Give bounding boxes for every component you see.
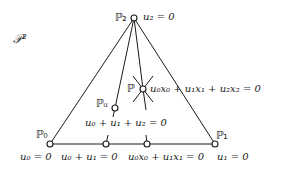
label-p2-equation: u₂ = 0 <box>143 11 175 22</box>
label-p: ℙ <box>127 83 134 94</box>
label-pu: ℙᵤ <box>96 98 107 109</box>
label-p-equation: u₀x₀ + u₁x₁ + u₂x₂ = 0 <box>150 83 261 94</box>
point-pu <box>112 105 118 111</box>
label-p2: ℙ₂ <box>115 12 126 23</box>
point-q2 <box>144 141 150 147</box>
label-q2-equation: u₀x₀ + u₁x₁ = 0 <box>128 151 204 162</box>
point-q1 <box>103 141 109 147</box>
label-q1-equation: u₀ + u₁ = 0 <box>61 151 118 162</box>
label-p1-equation: u₁ = 0 <box>217 151 249 162</box>
projective-plane-diagram: 𝒫² ℙ₂ u₂ = 0 ℙ u₀x₀ + u₁x₁ + u₂x₂ = 0 ℙᵤ… <box>0 0 282 171</box>
label-p0: ℙ₀ <box>36 129 47 140</box>
label-p0-equation: u₀ = 0 <box>20 151 52 162</box>
point-p <box>140 86 146 92</box>
space-label: 𝒫² <box>13 34 27 45</box>
label-p1: ℙ₁ <box>216 130 227 141</box>
point-p0 <box>47 141 53 147</box>
point-p2 <box>131 15 137 21</box>
label-pu-equation: u₀ + u₁ + u₂ = 0 <box>85 117 167 128</box>
